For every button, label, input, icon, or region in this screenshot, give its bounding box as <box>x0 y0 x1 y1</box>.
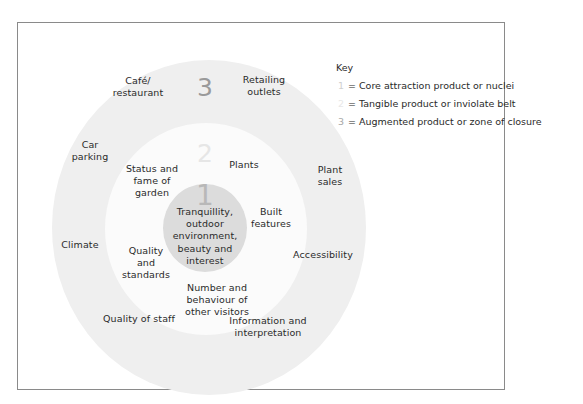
label-quality-standards: Qualityandstandards <box>122 245 170 282</box>
label-car-parking: Carparking <box>72 139 109 163</box>
legend-text: = Augmented product or zone of closure <box>348 116 542 127</box>
legend: Key 1= Core attraction product or nuclei… <box>336 59 542 131</box>
label-accessibility: Accessibility <box>293 249 353 261</box>
label-status-fame: Status andfame ofgarden <box>126 163 178 200</box>
legend-text: = Tangible product or inviolate belt <box>348 98 516 109</box>
core-label: Tranquillity,outdoorenvironment,beauty a… <box>173 206 238 267</box>
label-built-features: Builtfeatures <box>251 206 291 230</box>
label-visitors: Number andbehaviour ofother visitors <box>185 282 249 319</box>
legend-item: 1= Core attraction product or nuclei <box>336 77 542 95</box>
diagram-frame: 3 2 1 Tranquillity,outdoorenvironment,be… <box>17 22 505 390</box>
label-quality-staff: Quality of staff <box>103 313 175 325</box>
legend-number: 2 <box>336 95 346 113</box>
legend-number: 3 <box>336 113 346 131</box>
label-plant-sales: Plantsales <box>318 164 343 188</box>
label-climate: Climate <box>61 239 98 251</box>
legend-item: 3= Augmented product or zone of closure <box>336 113 542 131</box>
zone-3-number: 3 <box>190 75 220 100</box>
legend-text: = Core attraction product or nuclei <box>348 80 514 91</box>
label-cafe: Café/restaurant <box>113 75 164 99</box>
legend-number: 1 <box>336 77 346 95</box>
label-information: Information andinterpretation <box>229 315 306 339</box>
label-plants: Plants <box>229 159 259 171</box>
legend-item: 2= Tangible product or inviolate belt <box>336 95 542 113</box>
label-retailing: Retailingoutlets <box>243 74 285 98</box>
zone-2-number: 2 <box>190 141 220 166</box>
legend-title: Key <box>336 59 542 77</box>
